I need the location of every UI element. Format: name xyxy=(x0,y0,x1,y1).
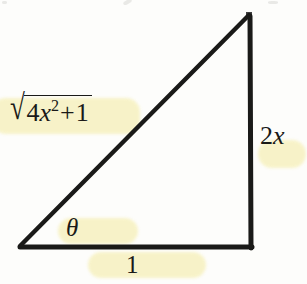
radicand-constant: 1 xyxy=(76,98,89,127)
angle-label-theta: θ xyxy=(66,215,78,240)
radical-sign-icon: √ xyxy=(10,90,25,127)
figure-canvas: √ 4x2+1 2x θ 1 xyxy=(0,0,307,284)
vertical-side-variable: x xyxy=(273,121,285,150)
triangle-hypotenuse-edge xyxy=(20,15,249,246)
hypotenuse-label: √ 4x2+1 xyxy=(10,95,92,127)
vertical-side-coefficient: 2 xyxy=(260,121,273,150)
radicand-variable: x xyxy=(39,98,51,127)
vertical-side-label: 2x xyxy=(260,123,285,149)
radicand-coefficient: 4 xyxy=(26,98,39,127)
radical-expression: √ 4x2+1 xyxy=(10,95,92,127)
radicand-operator: + xyxy=(59,98,76,127)
radicand: 4x2+1 xyxy=(24,95,91,127)
radicand-exponent: 2 xyxy=(51,97,59,114)
base-label: 1 xyxy=(126,252,139,277)
triangle-vertical-edge xyxy=(250,16,251,248)
